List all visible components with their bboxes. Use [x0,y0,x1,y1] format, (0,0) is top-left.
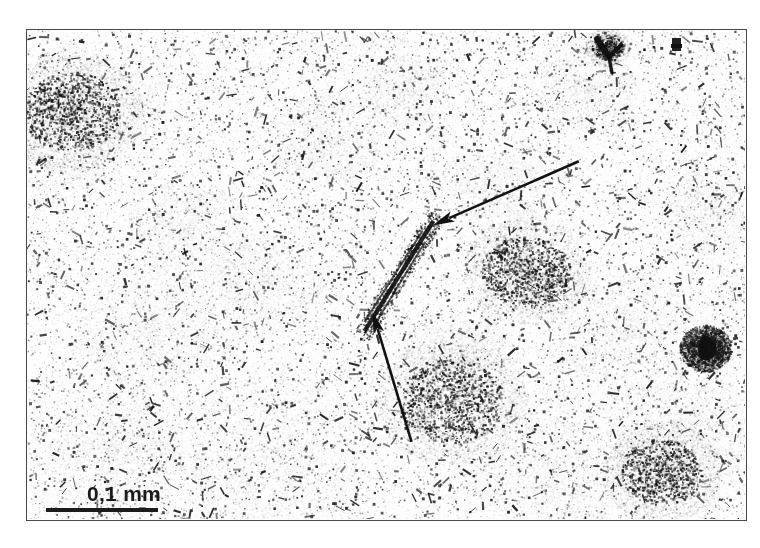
scale-bar-label: 0,1 mm [46,483,178,505]
scale-bar: 0,1 mm [46,483,178,512]
micrograph-panel: 0,1 mm [26,29,747,521]
scale-bar-line [46,508,158,512]
figure-root: 0,1 mm [0,0,760,548]
micrograph-image [27,30,745,519]
